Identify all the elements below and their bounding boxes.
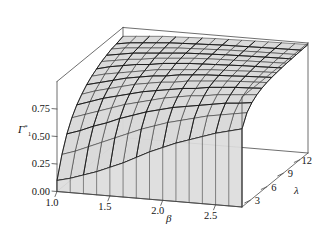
tick-label: 0.50: [32, 131, 50, 142]
tick-label: 2.0: [151, 205, 164, 216]
tick-label: 9: [288, 168, 293, 179]
y-axis-label: λ: [293, 184, 299, 196]
tick-label: 3: [255, 195, 260, 206]
tick-label: 0.75: [32, 103, 50, 114]
plot-canvas: 0.000.250.500.751.01.52.02.536912 Γ*1 β …: [0, 0, 332, 245]
tick-label: 1.5: [98, 201, 111, 212]
x-axis-label: β: [165, 212, 172, 224]
tick-label: 6: [271, 182, 276, 193]
tick-label: 12: [302, 155, 313, 166]
z-axis-label: Γ*1: [17, 123, 32, 138]
tick-label: 0.25: [32, 158, 50, 169]
surface-plot-figure: 0.000.250.500.751.01.52.02.536912 Γ*1 β …: [0, 0, 332, 245]
tick-label: 1.0: [45, 197, 58, 208]
tick-label: 0.00: [32, 186, 50, 197]
tick-label: 2.5: [204, 210, 217, 221]
